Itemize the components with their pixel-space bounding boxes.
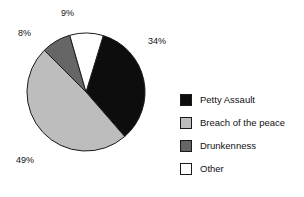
- legend-label-other: Other: [200, 163, 224, 174]
- legend-label-drunkenness: Drunkenness: [200, 140, 256, 151]
- pie-slices: [27, 33, 145, 151]
- legend-swatch-breach-of-the-peace: [180, 117, 192, 129]
- legend-label-breach-of-the-peace: Breach of the peace: [200, 117, 285, 128]
- pie-chart-figure: 34% 49% 8% 9% Petty Assault Breach of th…: [0, 0, 304, 197]
- chart-legend: Petty Assault Breach of the peace Drunke…: [180, 88, 300, 180]
- legend-item-other: Other: [180, 157, 300, 180]
- pie-label-petty-assault-pct: 34%: [148, 36, 166, 46]
- legend-item-breach-of-the-peace: Breach of the peace: [180, 111, 300, 134]
- legend-item-drunkenness: Drunkenness: [180, 134, 300, 157]
- legend-swatch-other: [180, 163, 192, 175]
- pie-label-breach-pct: 49%: [16, 155, 34, 165]
- legend-label-petty-assault: Petty Assault: [200, 94, 255, 105]
- legend-swatch-drunkenness: [180, 140, 192, 152]
- pie-label-drunkenness-pct: 8%: [18, 28, 31, 38]
- legend-item-petty-assault: Petty Assault: [180, 88, 300, 111]
- pie-label-other-pct: 9%: [61, 8, 74, 18]
- legend-swatch-petty-assault: [180, 94, 192, 106]
